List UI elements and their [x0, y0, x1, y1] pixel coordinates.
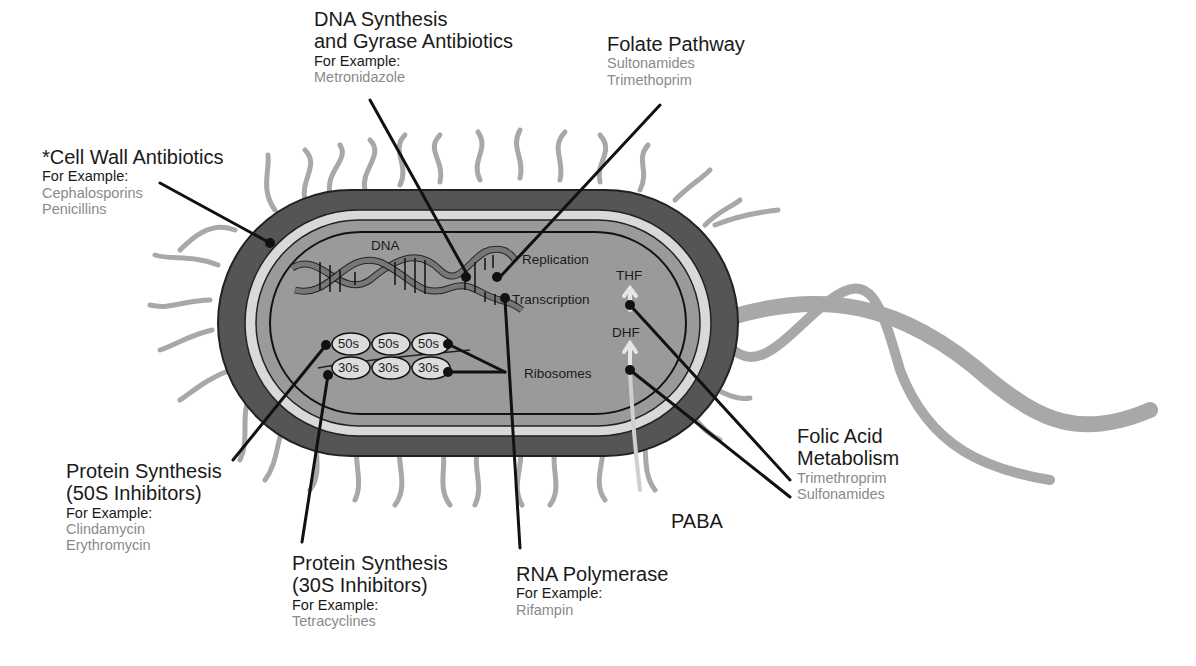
- callout-dna-synthesis: DNA Synthesis and Gyrase Antibiotics For…: [314, 8, 513, 85]
- ribosome-30s: 30s: [338, 360, 359, 375]
- ribosome-30s: 30s: [378, 360, 399, 375]
- drug-name: Sulfonamides: [797, 486, 899, 502]
- callout-title: RNA Polymerase: [516, 563, 668, 585]
- callout-protein-50s: Protein Synthesis (50S Inhibitors) For E…: [66, 460, 222, 553]
- ribosomes-label: Ribosomes: [524, 366, 592, 381]
- example-label: For Example:: [292, 597, 448, 613]
- callout-folic-acid: Folic Acid Metabolism Trimethroprim Sulf…: [797, 425, 899, 502]
- transcription-label: Transcription: [512, 292, 590, 307]
- callout-title: DNA Synthesis: [314, 8, 513, 30]
- example-label: For Example:: [516, 585, 668, 601]
- example-label: For Example:: [66, 505, 222, 521]
- callout-title: and Gyrase Antibiotics: [314, 30, 513, 52]
- callout-cell-wall: *Cell Wall Antibiotics For Example: Ceph…: [42, 146, 224, 217]
- callout-title: Protein Synthesis: [66, 460, 222, 482]
- callout-folate-pathway: Folate Pathway Sultonamides Trimethoprim: [607, 33, 745, 88]
- drug-name: Trimethoprim: [607, 72, 745, 88]
- flagellum: [728, 288, 1150, 480]
- callout-title: Folate Pathway: [607, 33, 745, 55]
- callout-title: Metabolism: [797, 447, 899, 469]
- dna-label: DNA: [371, 238, 400, 253]
- example-label: For Example:: [42, 168, 224, 184]
- drug-name: Sultonamides: [607, 55, 745, 71]
- drug-name: Penicillins: [42, 201, 224, 217]
- callout-rna-polymerase: RNA Polymerase For Example: Rifampin: [516, 563, 668, 618]
- ribosome-50s: 50s: [418, 336, 439, 351]
- example-label: For Example:: [314, 53, 513, 69]
- dhf-label: DHF: [612, 325, 640, 340]
- callout-title: Protein Synthesis: [292, 552, 448, 574]
- drug-name: Rifampin: [516, 602, 668, 618]
- drug-name: Cephalosporins: [42, 185, 224, 201]
- ribosome-50s: 50s: [338, 336, 359, 351]
- callout-title: (30S Inhibitors): [292, 574, 448, 596]
- callout-protein-30s: Protein Synthesis (30S Inhibitors) For E…: [292, 552, 448, 629]
- replication-label: Replication: [522, 252, 589, 267]
- drug-name: Erythromycin: [66, 537, 222, 553]
- callout-title: (50S Inhibitors): [66, 482, 222, 504]
- callout-title: Folic Acid: [797, 425, 899, 447]
- thf-label: THF: [616, 268, 642, 283]
- drug-name: Clindamycin: [66, 521, 222, 537]
- ribosome-30s: 30s: [418, 360, 439, 375]
- callout-title: *Cell Wall Antibiotics: [42, 146, 224, 168]
- drug-name: Tetracyclines: [292, 613, 448, 629]
- ribosome-50s: 50s: [378, 336, 399, 351]
- paba-label: PABA: [671, 510, 723, 532]
- drug-name: Trimethroprim: [797, 470, 899, 486]
- drug-name: Metronidazole: [314, 69, 513, 85]
